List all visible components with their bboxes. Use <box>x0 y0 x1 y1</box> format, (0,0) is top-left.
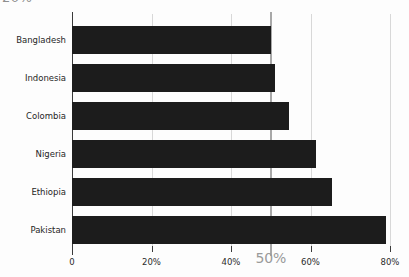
bar-bangladesh[interactable] <box>72 26 271 54</box>
plot-area <box>72 14 390 252</box>
x-tick-label-80: 80% <box>381 256 400 268</box>
x-tick-label-20: 20% <box>142 256 161 268</box>
bar-colombia[interactable] <box>72 102 289 130</box>
x-tick-mark-20 <box>152 246 153 252</box>
bar-ethiopia[interactable] <box>72 178 332 206</box>
x-tick-label-40: 40% <box>222 256 241 268</box>
category-label-pakistan: Pakistan <box>0 225 66 235</box>
bar-pakistan[interactable] <box>72 216 386 244</box>
x-tick-label-0: 0 <box>69 256 74 268</box>
bar-chart: 20% BangladeshIndonesiaColombiaNigeriaEt… <box>0 0 409 277</box>
x-axis-tick-labels: 020%40%50%60%80% <box>0 256 409 277</box>
bar-indonesia[interactable] <box>72 64 275 92</box>
x-tick-mark-40 <box>231 246 232 252</box>
cropped-title-fragment: 20% <box>2 0 62 5</box>
x-tick-label-60: 60% <box>301 256 320 268</box>
cropped-title-text: 20% <box>2 0 62 5</box>
category-label-ethiopia: Ethiopia <box>0 187 66 197</box>
gridline-80 <box>390 14 391 252</box>
bar-nigeria[interactable] <box>72 140 316 168</box>
x-tick-mark-60 <box>311 246 312 252</box>
x-tick-label-50: 50% <box>255 252 286 264</box>
bar-series <box>72 14 390 252</box>
x-tick-mark-80 <box>390 246 391 252</box>
category-label-bangladesh: Bangladesh <box>0 35 66 45</box>
category-label-indonesia: Indonesia <box>0 73 66 83</box>
x-tick-mark-0 <box>72 246 73 252</box>
category-label-nigeria: Nigeria <box>0 149 66 159</box>
category-axis-labels: BangladeshIndonesiaColombiaNigeriaEthiop… <box>0 14 66 252</box>
category-label-colombia: Colombia <box>0 111 66 121</box>
